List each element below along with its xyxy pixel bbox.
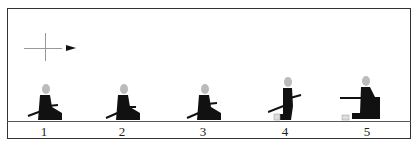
arrow-right-icon: [66, 45, 76, 51]
crosshair-horizontal: [24, 48, 62, 49]
crosshair-vertical: [45, 33, 46, 61]
pose-figure-1: [26, 80, 66, 122]
pose-figure-4: [268, 76, 308, 122]
pose-label-5: 5: [357, 124, 377, 140]
pose-figure-2: [104, 80, 144, 122]
pose-figure-3: [185, 80, 225, 122]
pose-label-4: 4: [275, 124, 295, 140]
pose-label-2: 2: [112, 124, 132, 140]
pose-label-1: 1: [34, 124, 54, 140]
pose-label-3: 3: [193, 124, 213, 140]
pose-figure-5: [340, 74, 388, 122]
